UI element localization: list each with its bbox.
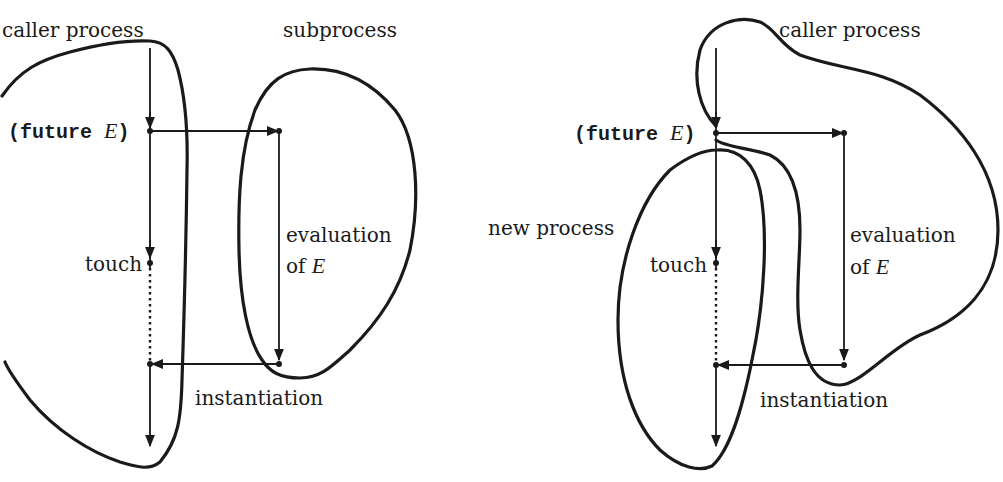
new-process-label: new process bbox=[488, 216, 614, 240]
evaluation-of-e-label: of E bbox=[850, 254, 890, 279]
future-expression: (future E) bbox=[8, 118, 129, 144]
instantiation-label: instantiation bbox=[760, 388, 888, 412]
caller-process-region bbox=[697, 19, 998, 385]
future-process-diagrams: caller process subprocess (future E) tou… bbox=[0, 0, 1003, 482]
subprocess-label: subprocess bbox=[283, 18, 397, 42]
evaluation-of-e-label: of E bbox=[286, 253, 326, 278]
evaluation-label: evaluation bbox=[850, 223, 956, 247]
right-diagram: caller process new process (future E) to… bbox=[488, 18, 998, 469]
left-diagram: caller process subprocess (future E) tou… bbox=[2, 18, 416, 467]
touch-label: touch bbox=[85, 252, 142, 276]
instantiation-label: instantiation bbox=[195, 386, 323, 410]
caller-process-label: caller process bbox=[779, 18, 921, 42]
new-process-region bbox=[618, 150, 764, 469]
touch-label: touch bbox=[650, 253, 707, 277]
evaluation-label: evaluation bbox=[286, 223, 392, 247]
caller-process-label: caller process bbox=[2, 18, 144, 42]
future-expression: (future E) bbox=[574, 120, 695, 146]
